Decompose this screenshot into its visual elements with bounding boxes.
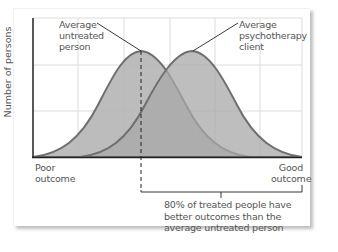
annotation-line: person	[59, 41, 104, 52]
note-line: 80% of treated people have	[164, 199, 291, 211]
good-outcome-label: Good outcome	[271, 162, 303, 184]
untreated-annotation: Average untreated person	[59, 19, 104, 52]
percent-bracket	[141, 185, 302, 198]
label-line: outcome	[271, 173, 303, 184]
therapy-annotation: Average psychotherapy client	[239, 19, 307, 52]
poor-outcome-label: Poor outcome	[35, 162, 75, 184]
annotation-line: untreated	[59, 30, 104, 41]
annotation-line: psychotherapy	[239, 30, 307, 41]
note-line: better outcomes than the	[164, 211, 291, 223]
bracket-note: 80% of treated people have better outcom…	[164, 199, 291, 234]
y-axis-label: Number of persons	[2, 22, 13, 122]
label-line: Poor	[35, 162, 75, 173]
note-line: average untreated person	[164, 222, 291, 234]
label-line: Good	[271, 162, 303, 173]
annotation-line: client	[239, 41, 307, 52]
label-line: outcome	[35, 173, 75, 184]
annotation-line: Average	[59, 19, 104, 30]
annotation-line: Average	[239, 19, 307, 30]
